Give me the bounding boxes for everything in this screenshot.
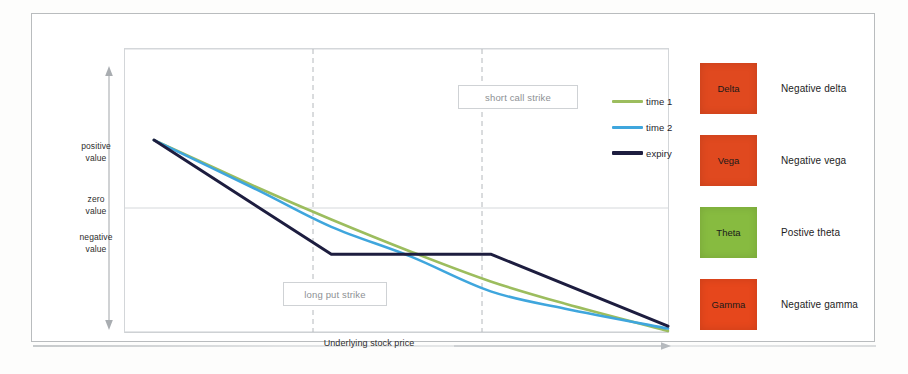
series-line-expiry: [154, 140, 668, 326]
greek-box-vega: Vega: [700, 135, 757, 186]
y-label-positive-value: positive value: [70, 141, 122, 164]
greek-description-theta: Postive theta: [781, 227, 840, 238]
legend-item-time-1: time 1: [612, 88, 704, 114]
greek-row-theta: Theta Postive theta: [700, 196, 908, 268]
greek-description-delta: Negative delta: [781, 83, 846, 94]
greek-name-delta: Delta: [717, 83, 739, 94]
legend-label-expiry: expiry: [646, 148, 672, 159]
greek-row-delta: Delta Negative delta: [700, 52, 908, 124]
scanned-page: positive value zero value negative value…: [0, 0, 908, 374]
greek-box-gamma: Gamma: [700, 279, 757, 330]
greek-description-vega: Negative vega: [781, 155, 846, 166]
figure-frame: positive value zero value negative value…: [31, 13, 875, 342]
greek-name-gamma: Gamma: [712, 299, 746, 310]
payoff-chart: positive value zero value negative value…: [64, 28, 684, 355]
series-line-time-1: [154, 140, 668, 331]
greek-box-theta: Theta: [700, 207, 757, 258]
legend-label-time-1: time 1: [646, 96, 672, 107]
legend-swatch-time-2: [612, 126, 643, 129]
chart-legend: time 1 time 2 expiry: [612, 88, 704, 166]
greeks-summary: Delta Negative delta Vega Negative vega …: [700, 52, 908, 340]
y-label-negative-value: negative value: [70, 232, 122, 255]
greek-description-gamma: Negative gamma: [781, 299, 858, 310]
x-axis-label: Underlying stock price: [289, 338, 449, 348]
series-line-time-2: [154, 140, 668, 328]
legend-swatch-expiry: [612, 151, 643, 155]
greek-name-theta: Theta: [716, 227, 740, 238]
y-label-zero-line1: zero: [70, 194, 122, 206]
y-label-negative-line2: value: [70, 244, 122, 256]
short-call-strike-label: short call strike: [458, 85, 578, 109]
y-label-zero-line2: value: [70, 206, 122, 218]
greek-name-vega: Vega: [718, 155, 740, 166]
y-label-negative-line1: negative: [70, 232, 122, 244]
legend-label-time-2: time 2: [646, 122, 672, 133]
y-label-positive-line2: value: [70, 153, 122, 165]
greek-box-delta: Delta: [700, 63, 757, 114]
series-group: [154, 140, 668, 331]
legend-item-time-2: time 2: [612, 114, 704, 140]
x-axis-arrow: [454, 342, 671, 350]
greek-row-gamma: Gamma Negative gamma: [700, 268, 908, 340]
y-label-zero-value: zero value: [70, 194, 122, 217]
legend-swatch-time-1: [612, 100, 643, 103]
greek-row-vega: Vega Negative vega: [700, 124, 908, 196]
y-label-positive-line1: positive: [70, 141, 122, 153]
legend-item-expiry: expiry: [612, 140, 704, 166]
long-put-strike-label: long put strike: [283, 282, 387, 306]
